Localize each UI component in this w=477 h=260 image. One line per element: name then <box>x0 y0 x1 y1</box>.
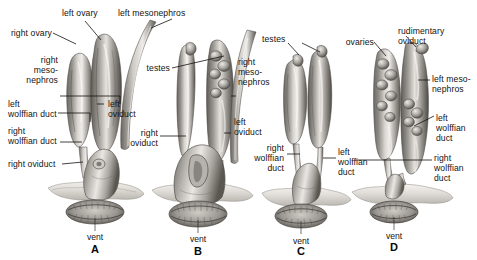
label-right-ovary-a: right ovary <box>2 28 52 38</box>
label-left-wolffian-duct-c: left wolffian duct <box>338 147 368 178</box>
label-ovaries-d: ovaries <box>334 37 374 47</box>
label-rudimentary-oviduct-d: rudimentary oviduct <box>398 26 444 46</box>
label-left-mesonephros-a: left mesonephros <box>118 8 185 18</box>
label-vent-d: vent <box>369 231 419 241</box>
vent-c <box>275 204 327 234</box>
vent-d <box>370 201 418 230</box>
label-right-mesonephros-b: right meso- nephros <box>238 57 270 88</box>
panel-letter-d: D <box>369 241 419 253</box>
label-right-oviduct-a: right oviduct <box>8 159 55 169</box>
label-testes-b: testes <box>120 63 170 73</box>
label-testes-c: testes <box>262 34 285 44</box>
panel-letter-a: A <box>70 243 120 255</box>
vent-a <box>66 200 124 231</box>
label-left-oviduct-b: left oviduct <box>234 117 262 137</box>
label-vent-a: vent <box>70 232 120 242</box>
label-left-wolffian-duct-a: left wolffian duct <box>8 99 57 119</box>
figure-plate: right ovary left ovary left mesonephros … <box>0 0 477 260</box>
label-right-wolffian-duct-d: right wolffian duct <box>434 153 464 184</box>
label-left-wolffian-duct-d: left wolffian duct <box>436 113 466 144</box>
panel-c-artwork <box>262 45 351 234</box>
label-left-mesonephros-d: left meso- nephros <box>432 74 471 94</box>
label-vent-b: vent <box>173 234 223 244</box>
panel-a-artwork <box>48 20 156 231</box>
label-right-oviduct-b: right oviduct <box>108 128 158 148</box>
label-right-wolffian-duct-c: right wolffian duct <box>232 143 284 174</box>
label-left-oviduct-a: left oviduct <box>108 99 136 119</box>
label-left-ovary-a: left ovary <box>62 8 98 18</box>
panel-letter-b: B <box>173 245 223 257</box>
vent-b <box>169 201 227 233</box>
label-right-mesonephros-a: right meso- nephros <box>2 55 58 86</box>
panel-letter-c: C <box>276 245 326 257</box>
label-right-wolffian-duct-a: right wolffian duct <box>8 126 57 146</box>
